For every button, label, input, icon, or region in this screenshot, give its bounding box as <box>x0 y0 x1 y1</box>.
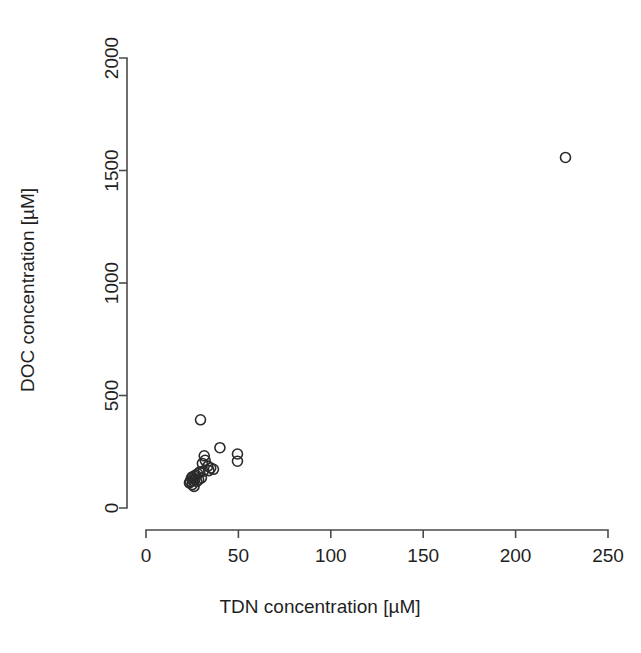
x-axis-line <box>146 530 608 538</box>
y-tick-label: 1500 <box>101 149 122 191</box>
x-axis-title: TDN concentration [µM] <box>219 596 420 617</box>
y-tick-label: 500 <box>101 380 122 412</box>
data-point <box>215 443 225 453</box>
y-tick-label: 2000 <box>101 37 122 79</box>
y-tick-label: 1000 <box>101 262 122 304</box>
y-tick-label: 0 <box>101 503 122 514</box>
x-tick-label: 0 <box>141 545 152 566</box>
x-tick-label: 250 <box>592 545 624 566</box>
y-axis-title: DOC concentration [µM] <box>17 188 38 392</box>
data-point <box>232 456 242 466</box>
x-axis-tick-labels: 050100150200250 <box>141 545 624 566</box>
data-point <box>560 152 570 162</box>
x-tick-label: 150 <box>407 545 439 566</box>
plot-canvas: 0500100015002000 050100150200250 TDN con… <box>0 0 641 653</box>
x-tick-label: 200 <box>500 545 532 566</box>
scatter-plot-figure: 0500100015002000 050100150200250 TDN con… <box>0 0 641 653</box>
y-axis-tick-labels: 0500100015002000 <box>101 37 122 513</box>
x-axis-tick-marks <box>238 530 515 538</box>
data-point <box>196 415 206 425</box>
x-tick-label: 100 <box>315 545 347 566</box>
x-tick-label: 50 <box>228 545 249 566</box>
data-point-series <box>184 152 570 491</box>
